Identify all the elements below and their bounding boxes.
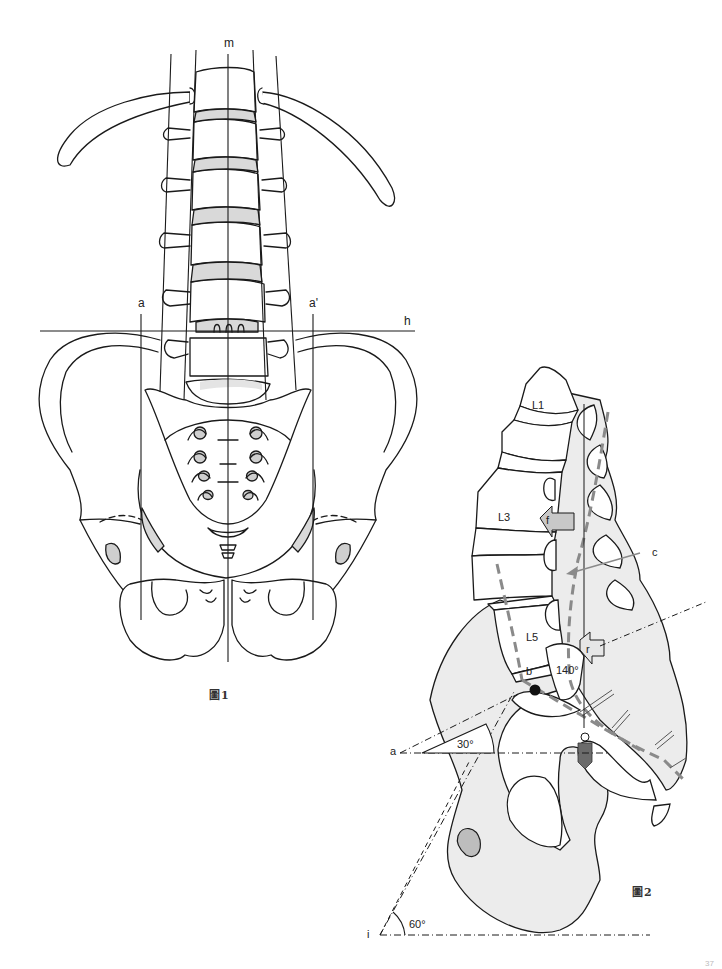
angle-label-30: 30° — [457, 739, 474, 750]
label-r: r — [586, 644, 590, 655]
sacral-foramen — [194, 427, 206, 439]
label-h: h — [404, 315, 411, 327]
disc-L3-L4 — [472, 528, 556, 556]
vertebra-L1 — [194, 68, 256, 113]
page-number: 37 — [705, 959, 714, 968]
vertebra-L4 — [191, 222, 262, 265]
disc-3 — [192, 207, 260, 225]
vertebra-label-L1: L1 — [532, 400, 544, 411]
inclination-arc — [393, 912, 405, 935]
vertebra-L1 — [520, 367, 578, 414]
vertebra-label-L5: L5 — [526, 632, 538, 643]
figure-2-drawing — [360, 360, 722, 969]
label-a-prime: a' — [309, 297, 318, 309]
vertebra-L4 — [472, 554, 552, 600]
vertebra-L2 — [193, 119, 258, 160]
vertebra-label-L3: L3 — [498, 512, 510, 523]
right-ischium — [232, 579, 336, 660]
angle-label-140: 140° — [556, 665, 579, 676]
plumb-ring — [581, 733, 589, 741]
disc-4 — [191, 262, 262, 282]
left-ilium — [39, 333, 160, 608]
vertebra-L3 — [192, 169, 260, 210]
left-rib — [58, 92, 190, 166]
promontory-point-b — [530, 685, 541, 696]
vertebra-S-top — [190, 338, 268, 376]
label-i: i — [367, 929, 369, 940]
left-ischium — [120, 579, 224, 660]
figure-1-caption: 圖1 — [209, 686, 230, 702]
figure-2-lateral-spine-pelvis: L1 L3 L5 f c r b 140° a 30° 60° i 圖2 — [360, 360, 722, 969]
label-a: a — [138, 297, 145, 309]
figure-2-caption: 圖2 — [632, 883, 653, 899]
label-b: b — [526, 666, 532, 677]
label-a: a — [390, 746, 396, 757]
label-c: c — [652, 547, 658, 558]
label-m: m — [224, 37, 234, 49]
coccyx-tip — [652, 804, 670, 826]
label-f: f — [546, 515, 549, 526]
angle-label-60: 60° — [409, 919, 426, 930]
